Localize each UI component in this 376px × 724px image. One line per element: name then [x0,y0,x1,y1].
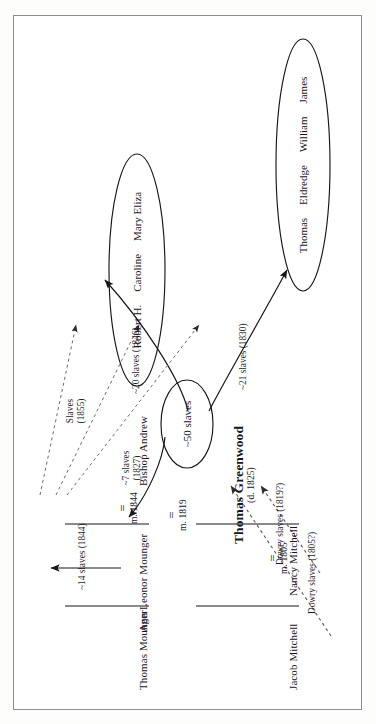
marriage-year: m. 1819 [178,498,189,532]
estate-slave-count: ~50 slaves [181,401,193,448]
child-name-caroline: Caroline [131,254,143,292]
child-name-james: James [297,77,309,104]
label-21-slaves-1830: ~21 slaves (1830) [238,324,249,390]
label-line-1: Slaves [65,388,76,434]
diagram-stage: Thomas Mounger Jacob Mitchell Nancy Mitc… [13,15,362,710]
label-line-2: (1827) [132,436,143,500]
person-ann-leonor-mounger: Ann Leonor Mounger [137,534,149,632]
label-slaves-1855: Slaves (1855) [65,388,86,434]
label-dowry-slaves-1819: Dowry slaves (1819?) [275,483,286,565]
child-name-mary-eliza: Mary Eliza [131,192,143,241]
child-name-thomas: Thomas [297,218,309,253]
figure-page: Thomas Mounger Jacob Mitchell Nancy Mitc… [0,0,376,724]
person-name: Jacob Mitchell [287,624,299,690]
child-name-william: William [297,117,309,153]
diagram-canvas: Thomas Mounger Jacob Mitchell Nancy Mitc… [13,15,362,710]
marriage-greenwood: = m. 1819 [165,498,189,532]
person-name: Thomas Greenwood [231,425,246,545]
label-7-slaves-1827: ~7 slaves (1827) [121,436,142,500]
person-jacob-mitchell: Jacob Mitchell [287,624,299,690]
person-thomas-greenwood: Thomas Greenwood (d. 1825) [231,425,257,545]
person-death-year: (d. 1825) [246,425,257,545]
label-line-2: (1855) [76,388,87,434]
label-14-slaves-1844: ~14 slaves (1844) [77,524,88,590]
label-line-1: ~7 slaves [121,436,132,500]
greenwood-children-names: Thomas Eldredge William James [292,45,314,285]
child-name-eldredge: Eldredge [297,165,309,205]
label-dowry-slaves-1805: Dowry slaves (1805?) [307,532,318,614]
person-name: Ann Leonor Mounger [137,534,149,632]
label-20-slaves-1846: ~20 slaves (1846) [131,328,142,394]
estate-group-label: ~50 slaves [177,382,197,466]
marriage-equals-symbol: = [165,498,178,532]
